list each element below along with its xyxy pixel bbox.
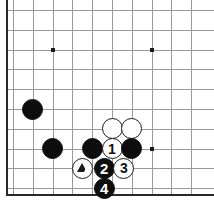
grid-line-vertical [13,0,14,194]
grid-line-horizontal [6,50,214,51]
star-point-upper-right-icon [150,48,154,52]
triangle-mark-icon [77,163,87,172]
go-board[interactable]: 1234 [0,0,214,209]
grid-line-horizontal [6,69,214,70]
black-stone[interactable] [42,138,63,159]
white-stone[interactable] [121,118,142,139]
black-stone[interactable] [82,138,103,159]
move-number-label: 2 [94,158,115,179]
move-number-label: 4 [94,178,115,199]
grid-line-horizontal [6,10,214,11]
black-stone[interactable] [121,138,142,159]
grid-line-horizontal [6,89,214,90]
star-point-lower-right-icon [150,147,154,151]
move-number-label: 1 [102,138,123,159]
go-diagram-root: 1234 [0,0,214,209]
grid-line-vertical [53,0,54,194]
grid-line-vertical [152,0,153,194]
white-stone[interactable] [102,118,123,139]
board-edge-left [6,0,8,195]
grid-line-vertical [171,0,172,194]
star-point-upper-left-icon [51,48,55,52]
triangle-mark-inner-icon [84,166,90,172]
move-number-label: 3 [113,158,134,179]
grid-line-vertical [33,0,34,194]
grid-line-horizontal [6,30,214,31]
black-stone[interactable] [22,99,43,120]
grid-line-vertical [191,0,192,194]
